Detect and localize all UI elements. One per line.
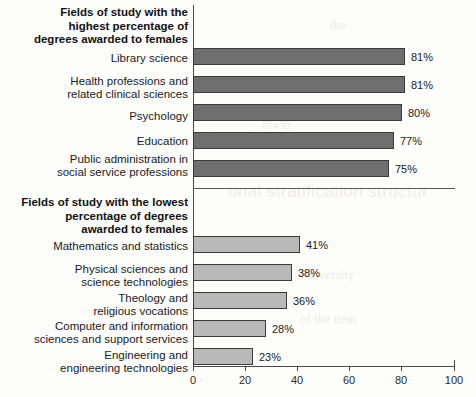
x-tick-80 bbox=[401, 366, 402, 371]
bar-value-computer-information-sciences: 28% bbox=[272, 323, 294, 335]
x-tick-60 bbox=[349, 366, 350, 371]
category-label-engineering: Engineering and engineering technologies bbox=[60, 349, 188, 374]
plot-area: 0 20 40 60 80 100 81% 81% 80% 77% 75% 41… bbox=[193, 5, 455, 366]
bar-value-physical-sciences: 38% bbox=[298, 267, 320, 279]
x-axis-line bbox=[193, 366, 455, 367]
category-label-education: Education bbox=[137, 135, 188, 148]
x-tick-label-20: 20 bbox=[239, 374, 251, 386]
bar-value-library-science: 81% bbox=[411, 51, 433, 63]
x-tick-20 bbox=[245, 366, 246, 371]
category-label-public-administration: Public administration in social service … bbox=[57, 153, 188, 178]
x-tick-40 bbox=[297, 366, 298, 371]
x-tick-label-40: 40 bbox=[291, 374, 303, 386]
bar-engineering bbox=[193, 348, 253, 365]
bar-value-psychology: 80% bbox=[408, 107, 430, 119]
x-tick-0 bbox=[193, 366, 194, 371]
bar-theology bbox=[193, 292, 287, 309]
section-header-highest: Fields of study with the highest percent… bbox=[34, 6, 188, 47]
category-label-theology: Theology and religious vocations bbox=[93, 292, 188, 317]
bar-health-professions bbox=[193, 76, 405, 93]
bar-physical-sciences bbox=[193, 264, 292, 281]
chart-page: onal stratification structur the lower i… bbox=[0, 0, 476, 397]
section-separator-line bbox=[193, 188, 455, 189]
bar-value-mathematics-statistics: 41% bbox=[306, 239, 328, 251]
category-label-physical-sciences: Physical sciences and science technologi… bbox=[75, 263, 188, 288]
category-label-computer-information-sciences: Computer and information sciences and su… bbox=[34, 320, 188, 345]
bar-public-administration bbox=[193, 160, 389, 177]
bar-computer-information-sciences bbox=[193, 320, 266, 337]
category-label-library-science: Library science bbox=[111, 52, 188, 65]
bar-value-public-administration: 75% bbox=[395, 163, 417, 175]
x-tick-label-60: 60 bbox=[343, 374, 355, 386]
bar-value-health-professions: 81% bbox=[411, 79, 433, 91]
category-label-health-professions: Health professions and related clinical … bbox=[67, 75, 188, 100]
category-label-mathematics-statistics: Mathematics and statistics bbox=[53, 240, 188, 253]
bar-psychology bbox=[193, 104, 402, 121]
x-tick-label-100: 100 bbox=[445, 374, 463, 386]
section-header-lowest: Fields of study with the lowest percenta… bbox=[21, 196, 188, 237]
category-label-psychology: Psychology bbox=[129, 110, 188, 123]
bar-value-education: 77% bbox=[400, 135, 422, 147]
x-tick-label-80: 80 bbox=[395, 374, 407, 386]
bar-value-engineering: 23% bbox=[259, 351, 281, 363]
bar-library-science bbox=[193, 48, 405, 65]
bar-education bbox=[193, 132, 394, 149]
bar-value-theology: 36% bbox=[293, 295, 315, 307]
x-tick-label-0: 0 bbox=[190, 374, 196, 386]
bar-mathematics-statistics bbox=[193, 236, 300, 253]
x-tick-100 bbox=[454, 366, 455, 371]
